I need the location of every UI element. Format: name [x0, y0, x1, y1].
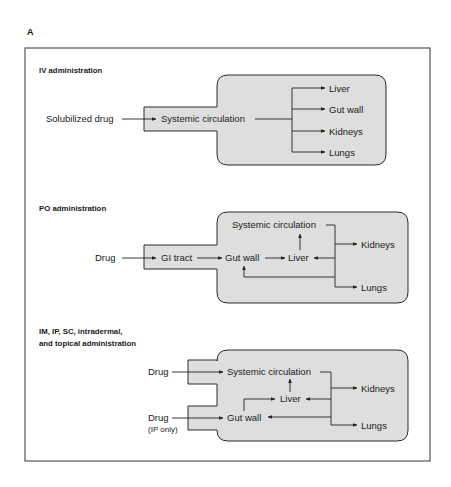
iv-target-gutwall: Gut wall — [329, 104, 363, 115]
po-title: PO administration — [39, 204, 106, 213]
iv-input-label: Solubilized drug — [46, 113, 114, 124]
im-input2-label: Drug — [148, 412, 169, 423]
po-kidneys-label: Kidneys — [361, 239, 395, 250]
im-title-line1: IM, IP, SC, intradermal, — [39, 327, 122, 336]
po-input-label: Drug — [95, 252, 116, 263]
iv-panel: IV administration Solubilized drug Syste… — [39, 66, 386, 165]
im-input2-note: (IP only) — [148, 425, 178, 434]
panel-letter: A — [27, 27, 34, 37]
iv-systemic-label: Systemic circulation — [161, 113, 245, 124]
po-gi-label: GI tract — [161, 252, 193, 263]
iv-target-kidneys: Kidneys — [329, 126, 363, 137]
im-liver-label: Liver — [280, 393, 301, 404]
im-lungs-label: Lungs — [361, 420, 387, 431]
iv-target-lungs: Lungs — [329, 147, 355, 158]
im-title-line2: and topical administration — [39, 339, 136, 348]
iv-title: IV administration — [39, 66, 102, 75]
administration-routes-diagram: A IV administration Solubilized drug Sys… — [0, 0, 451, 487]
po-systemic-label: Systemic circulation — [232, 219, 316, 230]
po-panel: PO administration Drug GI tract Gut wall… — [39, 204, 408, 303]
iv-target-liver: Liver — [329, 83, 350, 94]
po-lungs-label: Lungs — [361, 282, 387, 293]
im-kidneys-label: Kidneys — [361, 383, 395, 394]
im-panel: IM, IP, SC, intradermal, and topical adm… — [39, 327, 408, 441]
po-liver-label: Liver — [288, 252, 309, 263]
po-gut-label: Gut wall — [225, 252, 259, 263]
im-systemic-label: Systemic circulation — [227, 366, 311, 377]
im-gut-label: Gut wall — [227, 412, 261, 423]
im-input1-label: Drug — [148, 366, 169, 377]
